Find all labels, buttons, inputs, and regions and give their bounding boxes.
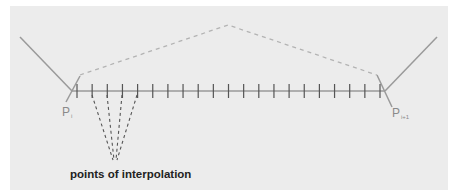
dashed-curve: [80, 25, 377, 75]
right-point-letter: P: [392, 106, 400, 120]
right-point-subscript: i+1: [401, 114, 409, 120]
left-point-subscript: i: [71, 113, 72, 119]
interpolation-pointers: [92, 95, 137, 160]
interpolation-diagram: [0, 0, 457, 196]
caption: points of interpolation: [70, 168, 191, 180]
left-tangent: [66, 76, 80, 102]
right-segment: [385, 37, 437, 91]
left-point-label: Pi: [62, 106, 72, 122]
right-point-label: Pi+1: [392, 107, 409, 123]
left-segment: [20, 37, 72, 91]
left-point-letter: P: [62, 105, 70, 119]
